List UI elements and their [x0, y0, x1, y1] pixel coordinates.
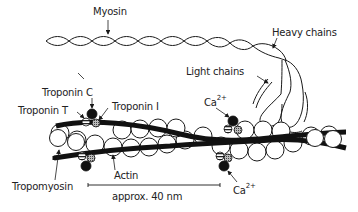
- label-calcium-bottom: Ca2+: [233, 186, 256, 196]
- myosin-tail: [46, 37, 286, 61]
- label-troponin-c: Troponin C: [42, 88, 93, 98]
- ca-text: Ca: [204, 97, 217, 108]
- label-light-chains: Light chains: [186, 67, 244, 77]
- label-myosin: Myosin: [93, 7, 127, 17]
- troponin-complex-right-bottom: [216, 152, 232, 171]
- label-calcium-top: Ca2+: [204, 98, 227, 108]
- label-troponin-t: Troponin T: [18, 106, 68, 116]
- ca-charge: 2+: [246, 182, 256, 190]
- scale-bar: [88, 183, 220, 187]
- ca-text: Ca: [233, 185, 246, 196]
- label-scale: approx. 40 nm: [112, 192, 182, 202]
- label-tropomyosin: Tropomyosin: [12, 182, 73, 192]
- label-troponin-i: Troponin I: [112, 102, 159, 112]
- label-heavy-chains: Heavy chains: [272, 28, 337, 38]
- label-actin: Actin: [114, 171, 138, 181]
- ca-charge: 2+: [217, 94, 227, 102]
